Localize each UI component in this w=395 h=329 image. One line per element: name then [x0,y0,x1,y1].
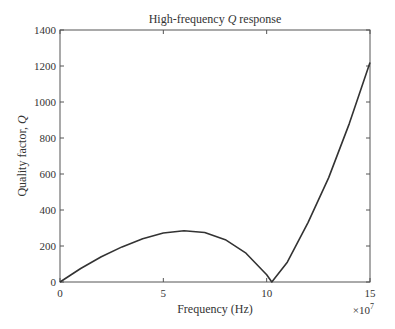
y-tick-label: 600 [40,168,57,180]
x-tick-label: 5 [161,287,167,299]
y-tick-label: 800 [40,132,57,144]
x-tick-label: 0 [57,287,63,299]
y-tick-label: 400 [40,204,57,216]
q-curve [60,62,370,282]
y-tick-label: 0 [51,276,57,288]
q-response-chart: 0510150200400600800100012001400High-freq… [0,0,395,329]
y-tick-label: 1200 [34,60,57,72]
y-axis-label: Quality factor, Q [15,115,29,197]
x-tick-label: 10 [261,287,273,299]
chart-title: High-frequency Q response [149,12,282,26]
plot-frame [60,30,370,282]
y-tick-label: 1000 [34,96,57,108]
x-tick-label: 15 [365,287,377,299]
y-tick-label: 200 [40,240,57,252]
x-axis-label: Frequency (Hz) [177,302,253,316]
x-multiplier: ×107 [353,302,374,316]
y-tick-label: 1400 [34,24,57,36]
